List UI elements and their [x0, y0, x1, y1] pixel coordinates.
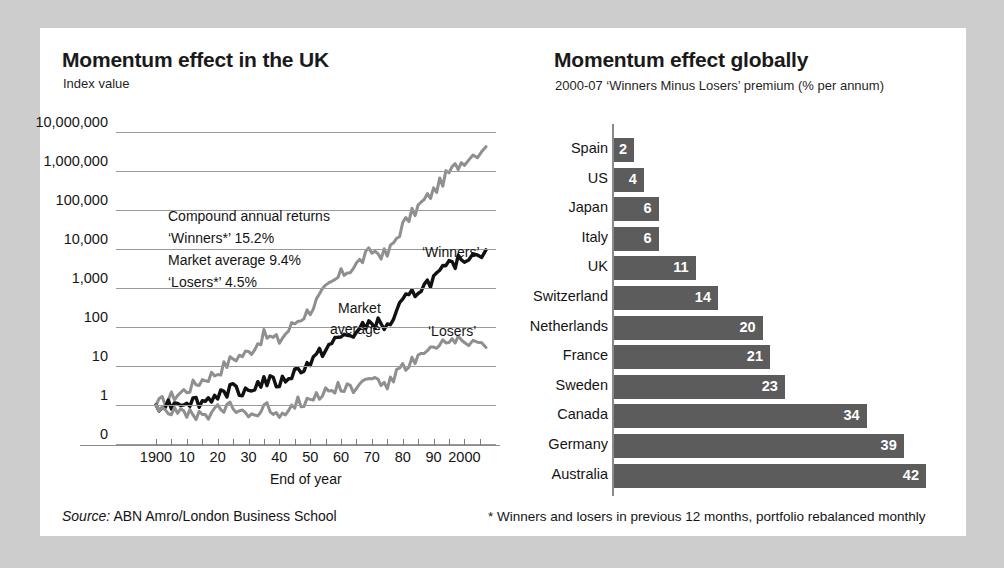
bar-chart-row: Germany39 [522, 434, 966, 458]
source-label: Source: [62, 508, 110, 524]
bar-value-label: 14 [695, 289, 711, 305]
line-chart-x-tick [156, 439, 157, 446]
annotation-losers-return: ‘Losers*’ 4.5% [168, 274, 257, 290]
bar-rect: 2 [614, 138, 634, 162]
series-label-market-line2: average [330, 321, 381, 337]
bar-category-label: Netherlands [448, 318, 608, 334]
bar-value-label: 39 [881, 437, 897, 453]
line-chart-y-tick-label: 1,000,000 [8, 153, 108, 169]
line-chart-gridline [116, 405, 496, 406]
bar-chart-row: Switzerland14 [522, 286, 966, 310]
line-chart-x-axis-line [80, 445, 500, 446]
line-chart-x-tick [326, 439, 327, 446]
bar-chart-row: Australia42 [522, 464, 966, 488]
right-chart-subtitle: 2000-07 ‘Winners Minus Losers’ premium (… [555, 78, 884, 93]
line-chart-gridline [116, 171, 496, 172]
line-chart-x-tick [218, 439, 219, 446]
left-chart-axis-label: Index value [63, 76, 130, 91]
right-chart-title: Momentum effect globally [554, 48, 808, 72]
line-chart-y-tick-label: 0 [8, 426, 108, 442]
bar-value-label: 6 [643, 200, 651, 216]
figure-card: Momentum effect in the UK Index value 10… [40, 28, 966, 536]
bar-value-label: 6 [643, 230, 651, 246]
bar-value-label: 42 [903, 467, 919, 483]
left-chart-title: Momentum effect in the UK [62, 48, 329, 72]
line-chart-x-tick [279, 439, 280, 446]
bar-rect: 42 [614, 464, 926, 488]
line-chart-y-tick-label: 10,000 [8, 231, 108, 247]
bar-chart-row: France21 [522, 345, 966, 369]
bar-chart-row: Spain2 [522, 138, 966, 162]
line-chart-y-tick-label: 10 [8, 348, 108, 364]
bar-rect: 4 [614, 168, 644, 192]
bar-value-label: 20 [739, 319, 755, 335]
bar-value-label: 21 [747, 348, 763, 364]
bar-category-label: US [448, 170, 608, 186]
bar-rect: 6 [614, 197, 659, 221]
annotation-heading: Compound annual returns [168, 208, 330, 224]
footnote: * Winners and losers in previous 12 mont… [488, 509, 925, 524]
line-chart-x-tick [341, 439, 342, 446]
line-chart-x-tick [434, 439, 435, 446]
bar-rect: 34 [614, 404, 867, 428]
bar-rect: 39 [614, 434, 904, 458]
bar-chart-row: Sweden23 [522, 375, 966, 399]
bar-rect: 21 [614, 345, 770, 369]
line-chart-x-tick [171, 439, 172, 446]
bar-category-label: Switzerland [448, 288, 608, 304]
bar-category-label: Sweden [448, 377, 608, 393]
bar-value-label: 2 [619, 141, 627, 157]
bar-chart-plot: Spain2US4Japan6Italy6UK11Switzerland14Ne… [522, 124, 966, 496]
annotation-market-return: Market average 9.4% [168, 252, 301, 268]
source-text: ABN Amro/London Business School [113, 508, 336, 524]
bar-chart-panel: Momentum effect globally 2000-07 ‘Winner… [522, 28, 966, 536]
bar-value-label: 34 [843, 407, 859, 423]
bar-category-label: UK [448, 258, 608, 274]
bar-category-label: France [448, 347, 608, 363]
source-credit: Source: ABN Amro/London Business School [62, 508, 337, 524]
bar-chart-row: US4 [522, 168, 966, 192]
line-chart-panel: Momentum effect in the UK Index value 10… [40, 28, 520, 536]
bar-category-label: Japan [448, 199, 608, 215]
bar-chart-row: Canada34 [522, 404, 966, 428]
bar-chart-row: Italy6 [522, 227, 966, 251]
series-label-market-line1: Market [338, 300, 381, 316]
bar-category-label: Italy [448, 229, 608, 245]
line-chart-y-tick-label: 100,000 [8, 192, 108, 208]
line-chart-x-tick [418, 439, 419, 446]
bar-value-label: 11 [673, 259, 688, 275]
bar-category-label: Germany [448, 436, 608, 452]
line-chart-gridline [116, 366, 496, 367]
line-chart-gridline [116, 132, 496, 133]
bar-chart-row: Netherlands20 [522, 316, 966, 340]
bar-chart-row: Japan6 [522, 197, 966, 221]
line-chart-x-tick [249, 439, 250, 446]
line-chart-x-tick [295, 439, 296, 446]
line-chart-x-tick [233, 439, 234, 446]
line-chart-y-tick-label: 100 [8, 309, 108, 325]
bar-category-label: Australia [448, 466, 608, 482]
line-chart-y-tick-label: 1 [8, 387, 108, 403]
line-chart-y-tick-label: 1,000 [8, 270, 108, 286]
bar-rect: 23 [614, 375, 785, 399]
bar-rect: 14 [614, 286, 718, 310]
line-chart-x-tick [202, 439, 203, 446]
line-chart-y-tick-label: 10,000,000 [8, 114, 108, 130]
bar-value-label: 4 [629, 171, 637, 187]
line-chart-x-axis-title: End of year [270, 471, 342, 487]
line-chart-x-tick [356, 439, 357, 446]
figure-page: Momentum effect in the UK Index value 10… [0, 0, 1004, 568]
bar-chart-row: UK11 [522, 256, 966, 280]
bar-category-label: Canada [448, 406, 608, 422]
line-chart-x-tick [387, 439, 388, 446]
bar-rect: 11 [614, 256, 696, 280]
annotation-winners-return: ‘Winners*’ 15.2% [168, 230, 274, 246]
bar-category-label: Spain [448, 140, 608, 156]
bar-rect: 20 [614, 316, 763, 340]
line-chart-x-tick [264, 439, 265, 446]
bar-rect: 6 [614, 227, 659, 251]
bar-value-label: 23 [762, 378, 778, 394]
line-chart-x-tick [372, 439, 373, 446]
line-chart-x-tick [403, 439, 404, 446]
line-chart-x-tick [310, 439, 311, 446]
